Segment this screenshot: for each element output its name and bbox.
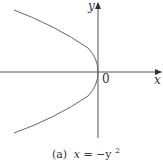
parabola-figure: y 0 x (a) x = −y 2: [0, 0, 163, 160]
figure-caption: (a) x = −y 2: [52, 146, 120, 160]
caption-prefix: (a): [52, 148, 67, 160]
x-axis-label: x: [154, 73, 161, 87]
caption-eq-rest: = −y: [83, 148, 112, 160]
y-axis-label: y: [87, 0, 95, 13]
caption-eq-sup: 2: [115, 146, 120, 155]
caption-eq-x: x: [74, 148, 81, 160]
origin-label: 0: [102, 72, 110, 86]
